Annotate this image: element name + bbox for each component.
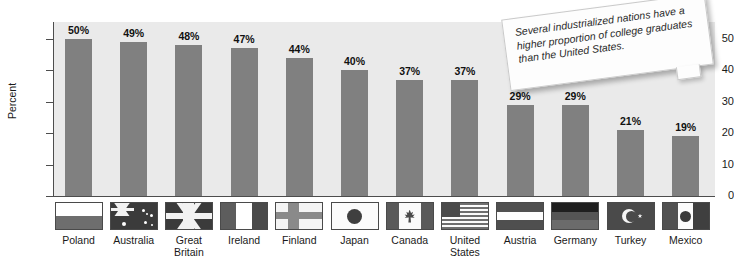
- country-cell: Germany: [549, 202, 601, 246]
- poland-flag: [55, 202, 103, 230]
- bar: [617, 130, 644, 196]
- country-cell: Finland: [273, 202, 325, 246]
- y-tick-mark: [46, 133, 53, 134]
- country-label: United States: [439, 234, 491, 258]
- country-cell: Canada: [384, 202, 436, 246]
- bar-value-label: 50%: [54, 25, 103, 36]
- y-tick-mark: [46, 165, 53, 166]
- country-axis: PolandAustraliaGreat BritainIrelandFinla…: [53, 202, 715, 273]
- country-cell: Mexico: [660, 202, 712, 246]
- country-label: Finland: [273, 234, 325, 246]
- country-cell: United States: [439, 202, 491, 258]
- bar: [175, 45, 202, 196]
- x-axis-line: [53, 196, 715, 197]
- bar-value-label: 37%: [385, 66, 434, 77]
- bar-group: 37%: [451, 22, 478, 196]
- great-britain-flag: [165, 202, 213, 230]
- bar: [65, 39, 92, 196]
- country-cell: Great Britain: [163, 202, 215, 258]
- bar-value-label: 48%: [164, 31, 213, 42]
- callout-note: Several industrialized nations have a hi…: [501, 0, 714, 91]
- bar-value-label: 29%: [551, 91, 600, 102]
- country-cell: Australia: [108, 202, 160, 246]
- austria-flag: [496, 202, 544, 230]
- country-cell: Ireland: [218, 202, 270, 246]
- bar-value-label: 44%: [275, 44, 324, 55]
- bar-group: 48%: [175, 22, 202, 196]
- country-label: Canada: [384, 234, 436, 246]
- y-tick-mark: [46, 102, 53, 103]
- bar-value-label: 40%: [330, 56, 379, 67]
- bar-value-label: 21%: [606, 116, 655, 127]
- country-label: Japan: [329, 234, 381, 246]
- united-states-flag: [441, 202, 489, 230]
- australia-flag: [110, 202, 158, 230]
- bar-value-label: 19%: [661, 122, 710, 133]
- bar-group: 40%: [341, 22, 368, 196]
- country-cell: Austria: [494, 202, 546, 246]
- country-cell: Turkey: [605, 202, 657, 246]
- country-label: Mexico: [660, 234, 712, 246]
- y-tick-mark: [46, 70, 53, 71]
- country-label: Austria: [494, 234, 546, 246]
- bar: [286, 58, 313, 196]
- y-tick-mark: [46, 196, 53, 197]
- bar-group: 47%: [231, 22, 258, 196]
- country-label: Australia: [108, 234, 160, 246]
- bar-group: 50%: [65, 22, 92, 196]
- bar: [341, 70, 368, 196]
- country-cell: Poland: [53, 202, 105, 246]
- canada-flag: [386, 202, 434, 230]
- bar: [120, 42, 147, 196]
- country-label: Germany: [549, 234, 601, 246]
- country-label: Great Britain: [163, 234, 215, 258]
- country-label: Turkey: [605, 234, 657, 246]
- bar-value-label: 29%: [496, 91, 545, 102]
- bar-value-label: 47%: [220, 34, 269, 45]
- bar: [507, 105, 534, 196]
- mexico-flag: [662, 202, 710, 230]
- bar-group: 44%: [286, 22, 313, 196]
- germany-flag: [551, 202, 599, 230]
- country-label: Poland: [53, 234, 105, 246]
- bar: [672, 136, 699, 196]
- country-cell: Japan: [329, 202, 381, 246]
- y-tick-mark: [46, 39, 53, 40]
- y-axis-title: Percent: [6, 71, 18, 131]
- bar-group: 49%: [120, 22, 147, 196]
- country-label: Ireland: [218, 234, 270, 246]
- bar-value-label: 37%: [440, 66, 489, 77]
- bar-chart: Percent 50403020100 50%49%48%47%44%40%37…: [0, 0, 734, 273]
- ireland-flag: [220, 202, 268, 230]
- bar: [451, 80, 478, 196]
- bar: [231, 48, 258, 196]
- bar-group: 37%: [396, 22, 423, 196]
- bar-value-label: 49%: [109, 28, 158, 39]
- turkey-flag: [607, 202, 655, 230]
- japan-flag: [331, 202, 379, 230]
- finland-flag: [275, 202, 323, 230]
- bar: [562, 105, 589, 196]
- bar: [396, 80, 423, 196]
